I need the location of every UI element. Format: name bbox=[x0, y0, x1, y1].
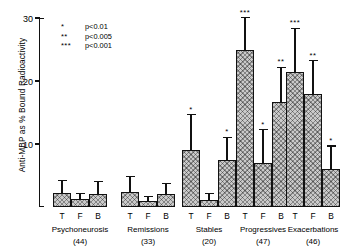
error-bar-cap bbox=[291, 28, 300, 29]
error-bar bbox=[147, 197, 148, 201]
bar-group: TFBPsychoneurosis(44) bbox=[53, 18, 107, 207]
x-axis-tick-label: T bbox=[121, 211, 139, 221]
y-axis-tick-label: 10 bbox=[11, 140, 33, 150]
x-axis-tick-label: B bbox=[218, 211, 236, 221]
y-axis-tick-label: 20 bbox=[11, 77, 33, 87]
significance-marker: * bbox=[189, 105, 192, 114]
x-axis-tick-label: F bbox=[200, 211, 218, 221]
group-name-label: Psychoneurosis bbox=[52, 225, 108, 234]
y-axis-tick bbox=[35, 17, 40, 18]
group-count-label: (33) bbox=[141, 237, 155, 246]
error-bar bbox=[97, 182, 98, 195]
significance-marker: *** bbox=[240, 8, 250, 17]
group-count-label: (44) bbox=[73, 237, 87, 246]
x-axis-tick-label: T bbox=[53, 211, 71, 221]
error-bar bbox=[190, 115, 191, 150]
error-bar-cap bbox=[205, 193, 214, 194]
error-bar-cap bbox=[277, 67, 286, 68]
error-bar-cap bbox=[309, 60, 318, 61]
bar[interactable] bbox=[182, 150, 200, 207]
group-name-label: Progressives bbox=[240, 225, 286, 234]
error-bar bbox=[129, 177, 130, 191]
bar[interactable] bbox=[157, 194, 175, 207]
x-axis-tick-label: F bbox=[139, 211, 157, 221]
error-bar-cap bbox=[126, 176, 135, 177]
error-bar-cap bbox=[144, 196, 153, 197]
y-axis-tick-label: 30 bbox=[11, 14, 33, 24]
error-bar-cap bbox=[327, 145, 336, 146]
error-bar bbox=[294, 29, 295, 72]
x-axis-tick-label: T bbox=[182, 211, 200, 221]
significance-marker: ** bbox=[278, 57, 285, 66]
bar[interactable] bbox=[200, 200, 218, 207]
error-bar bbox=[280, 68, 281, 103]
bar-group: *TF*BStables(20) bbox=[182, 18, 236, 207]
x-axis-tick-label: T bbox=[286, 211, 304, 221]
group-count-label: (47) bbox=[256, 237, 270, 246]
bar-group: TFBRemissions(33) bbox=[121, 18, 175, 207]
x-axis-tick-label: F bbox=[304, 211, 322, 221]
error-bar bbox=[61, 181, 62, 193]
bar[interactable] bbox=[304, 94, 322, 207]
x-axis-tick-label: B bbox=[322, 211, 340, 221]
significance-marker: * bbox=[329, 136, 332, 145]
bar-group: ***T**F*BExacerbations(46) bbox=[286, 18, 340, 207]
bar[interactable] bbox=[236, 50, 254, 208]
y-axis-tick bbox=[35, 143, 40, 144]
group-count-label: (46) bbox=[306, 237, 320, 246]
error-bar-cap bbox=[58, 180, 67, 181]
y-axis-label: Anti-MBP as % Bound Radioactivity bbox=[17, 5, 27, 205]
error-bar bbox=[165, 184, 166, 194]
error-bar-cap bbox=[162, 183, 171, 184]
error-bar bbox=[262, 130, 263, 163]
error-bar-cap bbox=[259, 129, 268, 130]
group-name-label: Stables bbox=[196, 225, 223, 234]
error-bar-cap bbox=[241, 17, 250, 18]
group-name-label: Remissions bbox=[127, 225, 168, 234]
bar[interactable] bbox=[71, 199, 89, 207]
error-bar bbox=[208, 194, 209, 200]
y-axis-tick bbox=[35, 80, 40, 81]
y-axis-line bbox=[39, 18, 40, 207]
bar[interactable] bbox=[89, 194, 107, 207]
x-axis-tick-label: F bbox=[254, 211, 272, 221]
bar[interactable] bbox=[322, 169, 340, 207]
significance-marker: * bbox=[225, 127, 228, 136]
group-count-label: (20) bbox=[202, 237, 216, 246]
error-bar bbox=[226, 138, 227, 161]
bar[interactable] bbox=[139, 201, 157, 207]
bar-group: ***T*F**BProgressives(47) bbox=[236, 18, 290, 207]
x-axis-tick-label: B bbox=[89, 211, 107, 221]
significance-marker: * bbox=[261, 120, 264, 129]
bar[interactable] bbox=[121, 192, 139, 207]
error-bar bbox=[244, 18, 245, 50]
significance-marker: *** bbox=[290, 18, 300, 27]
bar[interactable] bbox=[286, 72, 304, 207]
error-bar-cap bbox=[94, 181, 103, 182]
error-bar-cap bbox=[76, 193, 85, 194]
x-axis-tick-label: B bbox=[157, 211, 175, 221]
x-axis-tick-label: F bbox=[71, 211, 89, 221]
bar[interactable] bbox=[53, 193, 71, 207]
significance-marker: ** bbox=[310, 51, 317, 60]
x-axis-tick-label: T bbox=[236, 211, 254, 221]
error-bar bbox=[330, 147, 331, 170]
error-bar-cap bbox=[187, 114, 196, 115]
error-bar bbox=[79, 194, 80, 199]
error-bar bbox=[312, 61, 313, 94]
y-axis-bottom-cap bbox=[39, 206, 44, 207]
bar[interactable] bbox=[254, 163, 272, 207]
error-bar-cap bbox=[223, 137, 232, 138]
plot-area: * p<0.01 ** p<0.005 *** p<0.001 102030TF… bbox=[39, 18, 315, 207]
bar[interactable] bbox=[218, 160, 236, 207]
group-name-label: Exacerbations bbox=[288, 225, 339, 234]
